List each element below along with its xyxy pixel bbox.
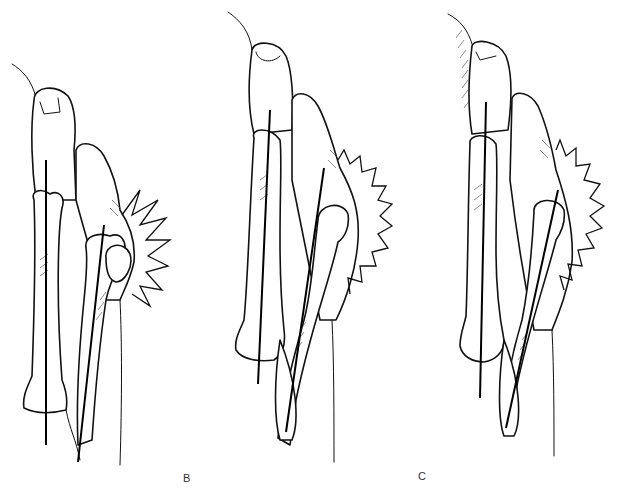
figure-panel-b	[200, 0, 410, 470]
hand-bones-illustration-b	[200, 0, 410, 470]
figure-caption	[0, 489, 618, 497]
figure-panel-a	[0, 0, 200, 470]
hand-bones-illustration-c	[410, 0, 618, 470]
panel-label-c: C	[418, 470, 426, 482]
hand-bones-illustration-a	[0, 0, 200, 470]
figure-panel-c	[410, 0, 618, 470]
panel-label-b: B	[183, 472, 190, 484]
